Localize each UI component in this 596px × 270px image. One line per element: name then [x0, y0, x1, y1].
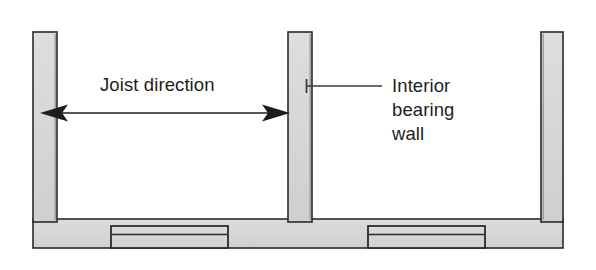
- interior-bearing-wall-label-line-3: wall: [391, 123, 424, 144]
- interior-bearing-wall-body: [288, 32, 312, 222]
- interior-bearing-wall: [288, 32, 312, 222]
- left-footing-pad-body: [111, 226, 228, 248]
- diagram-canvas: Joist direction Interior bearing wall: [0, 0, 596, 270]
- left-exterior-wall: [33, 32, 57, 222]
- interior-bearing-wall-label-line-1: Interior: [392, 75, 450, 96]
- right-footing-pad: [368, 226, 485, 248]
- right-footing-pad-body: [368, 226, 485, 248]
- construction-section-diagram: Joist direction Interior bearing wall: [0, 0, 596, 270]
- interior-bearing-wall-label-line-2: bearing: [392, 99, 454, 120]
- right-exterior-wall: [541, 32, 563, 222]
- left-exterior-wall-body: [33, 32, 57, 222]
- joist-direction-label: Joist direction: [100, 74, 215, 95]
- right-exterior-wall-body: [541, 32, 563, 222]
- left-footing-pad: [111, 226, 228, 248]
